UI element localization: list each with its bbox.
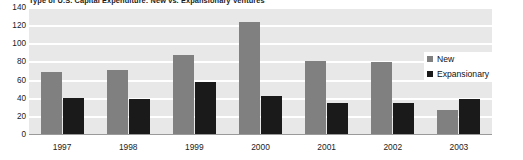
y-axis-tick-label: 140 bbox=[0, 4, 26, 12]
bar-new bbox=[305, 61, 326, 135]
legend-swatch-icon bbox=[427, 56, 433, 62]
bar-group bbox=[360, 8, 426, 135]
y-axis-tick-label: 20 bbox=[0, 113, 26, 121]
y-axis-tick-label: 0 bbox=[0, 131, 26, 139]
y-axis-tick-label: 100 bbox=[0, 40, 26, 48]
chart-title: Type of U.S. Capital Expenditure: New vs… bbox=[29, 0, 265, 5]
x-axis-tick-label: 1999 bbox=[185, 143, 204, 151]
plot-area bbox=[29, 8, 492, 135]
legend-label: New bbox=[437, 55, 454, 64]
legend-item: Expansionary bbox=[427, 70, 489, 79]
bar-new bbox=[437, 110, 458, 135]
bar-expansionary bbox=[195, 82, 216, 135]
legend-item: New bbox=[427, 55, 489, 64]
y-axis-tick-label: 60 bbox=[0, 76, 26, 84]
x-axis: 1997199819992000200120022003 bbox=[29, 136, 492, 156]
bar-group bbox=[95, 8, 161, 135]
bar-new bbox=[239, 22, 260, 135]
y-axis-tick-label: 80 bbox=[0, 58, 26, 66]
bar-expansionary bbox=[327, 103, 348, 135]
bar-new bbox=[41, 72, 62, 135]
axis-baseline bbox=[29, 134, 492, 135]
x-axis-tick-label: 2001 bbox=[317, 143, 336, 151]
x-axis-tick-label: 2002 bbox=[383, 143, 402, 151]
legend-label: Expansionary bbox=[437, 70, 489, 79]
bar-expansionary bbox=[261, 96, 282, 135]
bar-group bbox=[161, 8, 227, 135]
x-axis-tick-label: 2003 bbox=[450, 143, 469, 151]
y-axis-tick-label: 40 bbox=[0, 95, 26, 103]
bar-expansionary bbox=[459, 99, 480, 135]
bar-group bbox=[29, 8, 95, 135]
x-axis-tick-label: 2000 bbox=[251, 143, 270, 151]
y-axis: 140120100806040200 bbox=[0, 8, 26, 135]
y-axis-tick-label: 120 bbox=[0, 22, 26, 30]
legend-swatch-icon bbox=[427, 71, 433, 77]
bar-new bbox=[107, 70, 128, 135]
bar-expansionary bbox=[63, 98, 84, 135]
bar-new bbox=[173, 55, 194, 135]
bar-expansionary bbox=[393, 103, 414, 135]
bar-group bbox=[227, 8, 293, 135]
x-axis-tick-label: 1998 bbox=[119, 143, 138, 151]
bar-expansionary bbox=[129, 99, 150, 135]
bar-chart: Type of U.S. Capital Expenditure: New vs… bbox=[0, 0, 523, 160]
chart-legend: NewExpansionary bbox=[424, 52, 493, 81]
bar-group bbox=[294, 8, 360, 135]
x-axis-tick-label: 1997 bbox=[53, 143, 72, 151]
bar-new bbox=[371, 62, 392, 135]
